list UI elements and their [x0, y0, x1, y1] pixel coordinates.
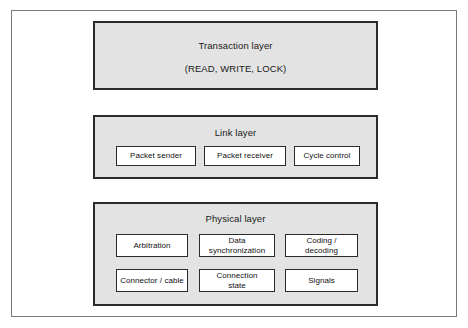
physical-unit-arbitration: Arbitration	[116, 234, 188, 257]
physical-layer-title: Physical layer	[95, 213, 376, 224]
link-unit-packet-receiver: Packet receiver	[204, 146, 286, 166]
physical-layer-block: Physical layer Arbitration Datasynchroni…	[93, 202, 378, 306]
layer-stack-diagram: Transaction layer (READ, WRITE, LOCK) Li…	[0, 0, 468, 328]
unit-label: Signals	[306, 276, 337, 286]
physical-unit-data-synchronization: Datasynchronization	[199, 234, 275, 257]
physical-unit-connection-state: Connectionstate	[199, 269, 275, 292]
transaction-layer-subtitle: (READ, WRITE, LOCK)	[95, 63, 376, 74]
unit-label: Arbitration	[131, 241, 172, 251]
unit-label: Connector / cable	[118, 276, 186, 286]
unit-label: Coding /decoding	[303, 236, 340, 256]
unit-label: Datasynchronization	[207, 236, 267, 256]
link-layer-title: Link layer	[95, 127, 376, 138]
physical-unit-signals: Signals	[285, 269, 358, 292]
link-layer-block: Link layer Packet sender Packet receiver…	[93, 115, 378, 179]
link-unit-cycle-control: Cycle control	[294, 146, 360, 166]
unit-label: Connectionstate	[215, 271, 260, 291]
transaction-layer-block: Transaction layer (READ, WRITE, LOCK)	[93, 21, 378, 90]
transaction-layer-title: Transaction layer	[95, 40, 376, 51]
diagram-frame: Transaction layer (READ, WRITE, LOCK) Li…	[11, 10, 457, 317]
physical-unit-coding-decoding: Coding /decoding	[285, 234, 358, 257]
unit-label: Packet sender	[128, 151, 184, 161]
link-unit-packet-sender: Packet sender	[116, 146, 196, 166]
physical-unit-connector-cable: Connector / cable	[116, 269, 188, 292]
unit-label: Packet receiver	[215, 151, 275, 161]
unit-label: Cycle control	[302, 151, 353, 161]
